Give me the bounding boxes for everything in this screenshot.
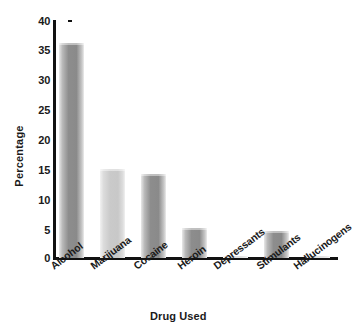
y-tick-label: 35 [22,45,50,55]
y-tick-label: 25 [22,105,50,115]
y-tick-label: 30 [22,75,50,85]
x-axis-title: Drug Used [150,310,207,322]
bar-top-edge [182,228,207,230]
bar-top-edge [141,174,166,176]
bar-top-edge [264,231,289,233]
y-tick-label: 40 [22,16,50,26]
y-tick-label: 0 [22,253,50,263]
y-tick-label: 20 [22,135,50,145]
y-tick-label: 5 [22,225,50,235]
plot-area [56,20,338,258]
y-tick-label: 10 [22,195,50,205]
y-tick-label: 15 [22,165,50,175]
y-axis-ticks: 40 35 30 25 20 15 10 5 0 [18,0,50,333]
bar-alcohol [59,43,84,258]
bar-top-edge [100,169,125,171]
bar-top-edge [59,43,84,45]
